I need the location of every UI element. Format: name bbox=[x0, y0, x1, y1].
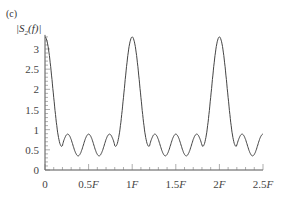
y-tick-label: 0 bbox=[34, 164, 40, 176]
x-tick-label: 0 bbox=[42, 178, 48, 190]
y-tick-label: 2 bbox=[34, 83, 40, 95]
x-tick-label: 2F bbox=[213, 178, 226, 190]
y-tick-label: 2.5 bbox=[25, 63, 39, 75]
spectrum-curve bbox=[45, 37, 263, 156]
x-tick-label: 2.5F bbox=[253, 178, 274, 190]
chart-plot: 00.511.522.5300.5F1F1.5F2F2.5F bbox=[0, 0, 281, 203]
x-tick-label: 0.5F bbox=[78, 178, 99, 190]
y-tick-label: 1.5 bbox=[25, 104, 39, 116]
y-tick-label: 0.5 bbox=[25, 144, 39, 156]
y-tick-label: 1 bbox=[34, 124, 40, 136]
y-tick-label: 3 bbox=[34, 43, 40, 55]
x-tick-label: 1.5F bbox=[166, 178, 187, 190]
x-tick-label: 1F bbox=[126, 178, 139, 190]
